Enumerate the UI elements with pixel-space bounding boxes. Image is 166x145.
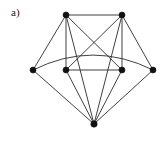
graph-vertex [30, 67, 36, 73]
graph-edge [94, 15, 122, 124]
graph-edge [66, 15, 94, 124]
graph-vertex [119, 12, 125, 18]
graph-vertex [63, 12, 69, 18]
graph-edge [94, 70, 153, 124]
graph-vertex [119, 67, 125, 73]
graph-diagram [0, 0, 166, 145]
graph-edge-curved [33, 55, 153, 70]
graph-edge [122, 15, 153, 70]
graph-edge [33, 15, 66, 70]
figure-panel: a) [0, 0, 166, 145]
graph-edge [94, 70, 122, 124]
graph-edge [33, 70, 94, 124]
edge-layer [33, 15, 153, 124]
graph-edge [66, 70, 94, 124]
graph-vertex [150, 67, 156, 73]
graph-vertex [63, 67, 69, 73]
graph-vertex [91, 121, 97, 127]
